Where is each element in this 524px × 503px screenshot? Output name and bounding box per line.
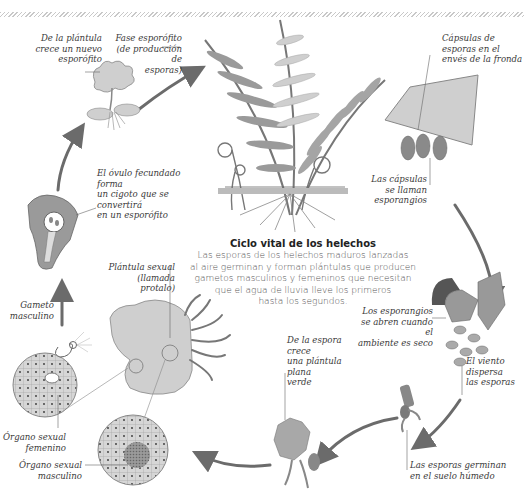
- label-sporangia-name: Las cápsulas se llaman esporangios: [365, 174, 427, 206]
- female-organ-closeup: [13, 353, 77, 428]
- fern-sporophyte-illustration: [205, 20, 385, 232]
- male-gamete-illustration: [55, 332, 92, 357]
- fern-life-cycle-diagram: De la plántula crece un nuevo esporófito…: [0, 0, 524, 503]
- germinating-spore-illustration: [399, 384, 420, 470]
- label-male-gamete: Gameto masculino: [6, 300, 54, 321]
- male-organ-closeup: [85, 415, 168, 485]
- label-sporophyte-phase: Fase esporófito (de producción de espora…: [110, 33, 182, 75]
- frond-underside-illustration: [385, 55, 478, 185]
- label-prothallus: Plántula sexual (llamada protalo): [105, 262, 175, 294]
- zygote-illustration: [28, 195, 96, 269]
- label-spore-capsules: Cápsulas de esporas en el envés de la fr…: [442, 33, 524, 65]
- label-green-plantlet: De la espora crece una plántula plana ve…: [287, 335, 367, 388]
- diagram-description: Las esporas de los helechos maduros lanz…: [168, 250, 438, 308]
- diagram-title: Ciclo vital de los helechos: [168, 237, 438, 250]
- diagram-caption: Ciclo vital de los helechos Las esporas …: [168, 237, 438, 308]
- label-germinate: Las esporas germinan en el suelo húmedo: [410, 460, 520, 481]
- label-male-organ: Órgano sexual masculino: [0, 460, 82, 481]
- label-zygote: El óvulo fecundado forma un cigoto que s…: [97, 168, 207, 221]
- label-female-organ: Órgano sexual femenino: [0, 432, 66, 453]
- label-new-sporophyte: De la plántula crece un nuevo esporófito: [14, 33, 102, 65]
- flat-plantlet-illustration: [274, 373, 320, 488]
- label-wind: El viento dispersa las esporas: [466, 356, 524, 388]
